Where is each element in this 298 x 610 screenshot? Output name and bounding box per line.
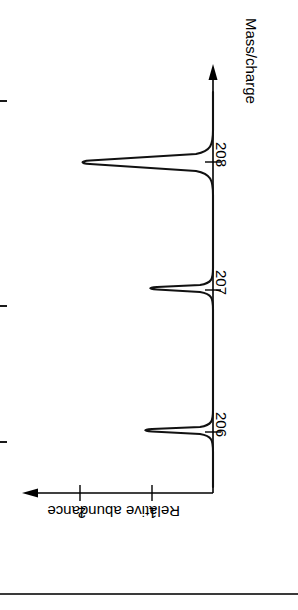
axis-title-relative-abundance: Relative abundance [47,503,180,520]
page-rule [0,593,298,595]
relative-abundance-axis [22,485,213,501]
mass-tick-label-207: 207 [213,270,230,295]
mass-spectrum-figure: 206 207 208 Mass/charge 1 2 Relative abu… [0,0,298,610]
axis-title-mass-charge: Mass/charge [243,18,260,104]
spectrum-trace [83,92,214,487]
mass-tick-label-206: 206 [213,412,230,437]
mass-tick-label-208: 208 [213,142,230,167]
